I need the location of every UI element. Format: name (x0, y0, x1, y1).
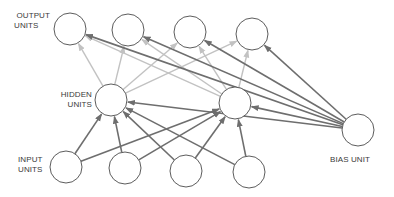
node-h2 (219, 87, 251, 119)
node-i4 (233, 156, 265, 188)
node-o2 (112, 14, 144, 46)
input-units-label: INPUT UNITS (18, 155, 54, 175)
bias-unit-label: BIAS UNIT (330, 155, 390, 165)
input-label-line2: UNITS (18, 165, 54, 175)
hidden-units-label: HIDDEN UNITS (56, 90, 92, 110)
node-o1 (54, 13, 86, 45)
node-i1 (50, 151, 82, 183)
node-o3 (174, 16, 206, 48)
node-h1 (95, 84, 127, 116)
edge-h1-o1 (79, 44, 103, 86)
output-label-line2: UNITS (14, 21, 50, 31)
hidden-label-line2: UNITS (56, 100, 92, 110)
node-i3 (170, 155, 202, 187)
node-o4 (236, 18, 268, 50)
edge-i1-h1 (75, 114, 102, 154)
edge-i4-h2 (238, 120, 245, 157)
node-i2 (109, 152, 141, 184)
node-b (342, 114, 374, 146)
output-units-label: OUTPUT UNITS (14, 11, 50, 31)
input-label-line1: INPUT (18, 155, 54, 165)
output-label-line1: OUTPUT (14, 11, 50, 21)
hidden-label-line1: HIDDEN (56, 90, 92, 100)
